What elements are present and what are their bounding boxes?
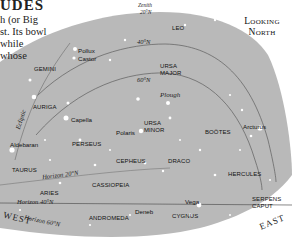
horizon-40-label: Horizon 40°N [17,198,53,205]
constellation-ursa-major-1: URSA [160,63,177,70]
constellation-cepheus: CEPHEUS [116,158,146,165]
star-deneb: Deneb [135,208,153,215]
constellation-serpens-caput-2: CAPUT [252,203,273,210]
plough-label: Plough [160,92,180,99]
looking-line-2: North [234,27,290,38]
zenith-latitude: 20°N [140,9,151,16]
star-castor: Castor [78,55,96,62]
constellation-cygnus: CYGNUS [172,213,198,220]
star-pollux: Pollux [78,47,95,54]
star-polaris: Polaris [116,129,135,136]
constellation-draco: DRACO [168,158,190,165]
intro-line-3: while [0,38,23,50]
constellation-leo: LEO [172,25,184,32]
constellation-cassiopeia: CASSIOPEIA [92,182,129,189]
constellation-hercules: HERCULES [228,171,261,178]
latitude-40-label: 40°N [137,38,150,45]
zenith-label: Zenith [138,2,152,9]
constellation-bootes: BOÖTES [205,129,231,136]
looking-north-heading: Looking North [234,16,290,38]
constellation-aries: ARIES [40,190,59,197]
intro-line-2: st. Its bowl [0,26,46,38]
star-vega: Vega [185,198,199,205]
constellation-ursa-major-2: MAJOR [160,70,182,77]
intro-line-1: h (or Big [0,14,38,26]
constellation-ursa-minor-2: MINOR [144,127,165,134]
constellation-taurus: TAURUS [12,167,37,174]
latitude-60-label: 60°N [137,76,150,83]
intro-title: UDES [0,0,44,12]
constellation-gemini: GEMINI [34,66,56,73]
constellation-perseus: PERSEUS [72,141,101,148]
star-capella: Capella [71,116,92,123]
intro-line-4: whose [0,50,27,62]
constellation-ursa-minor-1: URSA [144,120,161,127]
star-arcturus: Arcturus [243,123,266,130]
constellation-auriga: AURIGA [33,104,57,111]
star-chart: UDES h (or Big st. Its bowl while whose … [0,0,292,245]
constellation-andromeda: ANDROMEDA [89,215,129,222]
looking-line-1: Looking [234,16,290,27]
star-aldebaran: Aldebaran [10,141,38,148]
constellation-serpens-caput-1: SERPENS [252,196,281,203]
